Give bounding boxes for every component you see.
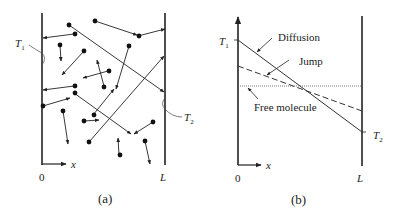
jump-leader <box>267 60 289 75</box>
l-label-b: L <box>356 172 363 184</box>
figure-canvas: T1 T2 <box>0 0 394 216</box>
free-molecule-leader <box>248 88 258 99</box>
caption-b: (b) <box>291 192 306 207</box>
t1-label-a: T1 <box>15 37 25 52</box>
diffusion-label: Diffusion <box>278 31 320 43</box>
origin-label-a: 0 <box>39 171 45 183</box>
panel-a: T1 T2 <box>15 13 194 206</box>
l-label-a: L <box>159 171 166 183</box>
t2-label-b: T2 <box>373 129 383 144</box>
panel-b: T1 T2 Diffusion Jump Free molecule x 0 L… <box>219 16 383 207</box>
x-label-b: x <box>265 159 271 171</box>
free-molecule-label: Free molecule <box>254 101 317 113</box>
t1-label-b: T1 <box>219 35 229 50</box>
jump-label: Jump <box>299 55 323 67</box>
caption-a: (a) <box>98 191 112 206</box>
t2-label-a: T2 <box>184 111 194 126</box>
origin-label-b: 0 <box>235 172 241 184</box>
diffusion-leader <box>257 38 272 52</box>
x-label-a: x <box>70 158 76 170</box>
